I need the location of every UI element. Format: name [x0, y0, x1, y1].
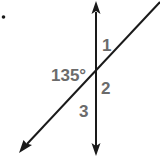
angle-2-label: 2	[101, 79, 110, 98]
vertical-line	[92, 1, 101, 156]
diagonal-line	[19, 2, 160, 153]
given-angle-label: 135°	[51, 66, 86, 85]
angle-1-label: 1	[102, 36, 111, 55]
angle-3-label: 3	[79, 102, 88, 121]
angle-diagram: 1 135° 2 3	[0, 0, 160, 161]
bullet-dot	[2, 15, 6, 19]
